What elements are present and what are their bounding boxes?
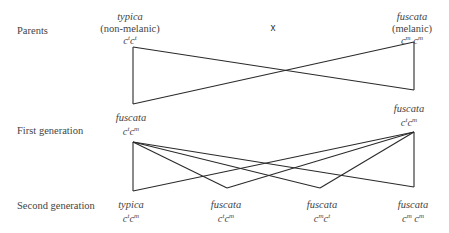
row-label-first-generation: First generation <box>17 125 83 136</box>
f1-left-to-f2-4 <box>133 142 414 187</box>
f1-right-fuscata: fuscata ctcm <box>394 103 424 129</box>
row-label-parents: Parents <box>17 25 48 36</box>
parent-fuscata: fuscata (melanic) cm cm <box>392 11 432 47</box>
parent-cross-line-b <box>133 42 414 104</box>
node-name: typica <box>100 11 159 23</box>
genotype: ctcm <box>116 126 146 138</box>
genotype: ctcm <box>394 117 424 129</box>
f1-right-to-f2-1 <box>133 132 414 191</box>
parent-cross-line-a <box>133 47 414 90</box>
node-name: fuscata <box>211 199 241 211</box>
node-name: fuscata <box>392 11 432 23</box>
f1-left-to-f2-3 <box>133 142 320 188</box>
parent-typica: typica (non-melanic) ctct <box>100 11 159 47</box>
node-name: fuscata <box>307 199 337 211</box>
node-description: (melanic) <box>392 23 432 35</box>
genotype: ctcm <box>211 213 241 225</box>
f2-fuscata-mm: fuscata cm cm <box>398 199 428 225</box>
node-name: fuscata <box>394 103 424 115</box>
node-name: fuscata <box>116 112 146 124</box>
node-name: typica <box>118 199 144 211</box>
f1-right-to-f2-2 <box>227 132 414 188</box>
genotype: ctcm <box>118 213 144 225</box>
f2-fuscata-tm: fuscata ctcm <box>211 199 241 225</box>
f2-fuscata-mt: fuscata cmct <box>307 199 337 225</box>
node-name: fuscata <box>398 199 428 211</box>
f2-typica: typica ctcm <box>118 199 144 225</box>
genotype: cmct <box>307 213 337 225</box>
genotype: ctct <box>100 35 159 47</box>
genotype: cm cm <box>392 35 432 47</box>
cross-symbol: x <box>271 22 276 33</box>
genotype: cm cm <box>398 213 428 225</box>
row-label-second-generation: Second generation <box>17 200 95 211</box>
f1-left-fuscata: fuscata ctcm <box>116 112 146 138</box>
